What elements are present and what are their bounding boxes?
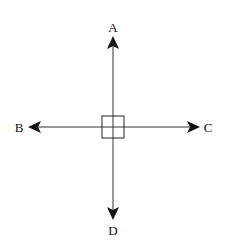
label-d: D <box>108 223 117 238</box>
force-diagram: A B C D <box>0 0 226 247</box>
label-b: B <box>15 120 24 135</box>
label-c: C <box>204 120 213 135</box>
label-a: A <box>108 20 118 35</box>
